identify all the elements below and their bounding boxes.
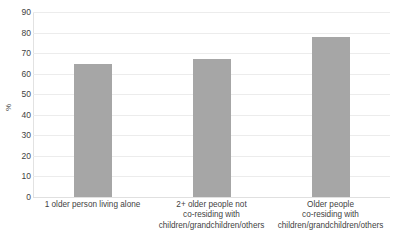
y-tick-label: 80 [14,28,31,37]
y-tick-label: 40 [14,110,31,119]
plot-area [33,12,390,197]
axis-baseline [33,197,390,198]
y-tick-label: 10 [14,172,31,181]
bar[interactable] [193,59,231,197]
bar-slot [152,12,271,197]
bar[interactable] [74,64,112,197]
y-axis-title: % [4,101,13,115]
x-tick-label-line: Older people [268,200,393,210]
x-tick-label-line: 2+ older people not [149,200,274,210]
y-tick-label: 90 [14,8,31,17]
y-tick-label: 20 [14,151,31,160]
y-tick-label: 50 [14,90,31,99]
bar-series [33,12,390,197]
bar-chart: % 0102030405060708090 1 older person liv… [0,0,397,241]
bar-slot [33,12,152,197]
x-tick-label-line: children/grandchildren/others [149,221,274,231]
x-tick-label: 2+ older people notco-residing withchild… [149,200,274,231]
x-tick-label-line: co-residing with [268,210,393,220]
x-tick-label-line: 1 older person living alone [30,200,155,210]
y-tick-label: 60 [14,69,31,78]
y-tick-label: 0 [14,193,31,202]
x-tick-label-line: children/grandchildren/others [268,221,393,231]
x-tick-label-line: co-residing with [149,210,274,220]
bar[interactable] [312,37,350,197]
y-axis-tick-labels: 0102030405060708090 [14,12,31,197]
x-tick-label: 1 older person living alone [30,200,155,210]
bar-slot [271,12,390,197]
x-axis-tick-labels: 1 older person living alone2+ older peop… [33,200,397,241]
y-tick-label: 70 [14,49,31,58]
x-tick-label: Older peopleco-residing withchildren/gra… [268,200,393,231]
y-tick-label: 30 [14,131,31,140]
